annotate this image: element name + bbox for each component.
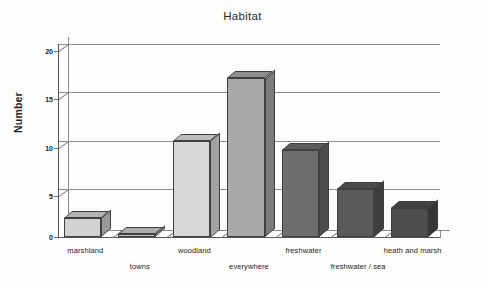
bar-side-face [210, 132, 220, 237]
bar-front-face [118, 234, 155, 237]
bar-side-face [265, 69, 275, 237]
bar-everywhere[interactable] [227, 78, 264, 237]
y-tick-label-0: 0 [49, 234, 53, 241]
x-tick-label-freshwater: freshwater [286, 246, 322, 255]
x-tick-label-freshwater-sea: freshwater / sea [331, 262, 386, 271]
y-tick-label-10: 10 [45, 144, 53, 151]
chart-title: Habitat [0, 10, 485, 22]
y-tick-label-15: 15 [45, 96, 53, 103]
bar-top-face [173, 134, 218, 141]
bar-freshwater[interactable] [282, 150, 319, 237]
bar-heath-and-marsh[interactable] [391, 208, 428, 237]
bar-front-face [64, 218, 101, 237]
gridline-20 [58, 44, 440, 45]
bar-freshwater-sea[interactable] [337, 189, 374, 237]
bar-front-face [173, 141, 210, 238]
floor-right-edge [440, 230, 441, 238]
x-tick-label-marshland: marshland [67, 246, 103, 255]
bar-top-face [337, 182, 382, 189]
y-axis-label: Number [12, 63, 24, 133]
bar-marshland[interactable] [64, 218, 101, 237]
x-tick-label-woodland: woodland [178, 246, 211, 255]
y-tick-label-20: 20 [45, 48, 53, 55]
y-tick-label-5: 5 [49, 192, 53, 199]
bar-front-face [391, 208, 428, 237]
x-tick-label-towns: towns [130, 262, 150, 271]
bar-top-face [64, 211, 109, 218]
x-axis-line [58, 237, 440, 238]
bar-front-face [337, 189, 374, 237]
bar-woodland[interactable] [173, 141, 210, 238]
y-axis-depth-line [68, 37, 69, 230]
chart-container: Habitat Number 05101520 marshlandtownswo… [0, 0, 485, 286]
bar-front-face [282, 150, 319, 237]
x-tick-label-everywhere: everywhere [229, 262, 269, 271]
bar-towns[interactable] [118, 234, 155, 237]
x-tick-label-heath-and-marsh: heath and marsh [384, 246, 442, 255]
bar-front-face [227, 78, 264, 237]
plot-area: 05101520 [58, 44, 440, 237]
y-axis-line [58, 44, 59, 237]
bar-side-face [374, 180, 384, 237]
bar-side-face [319, 142, 329, 237]
